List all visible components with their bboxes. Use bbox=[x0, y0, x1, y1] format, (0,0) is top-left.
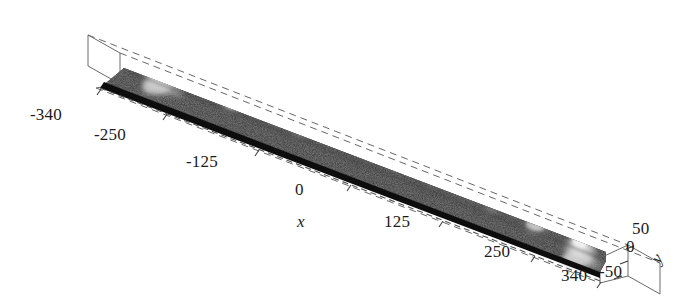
x-axis-ticks bbox=[97, 89, 601, 288]
y-tick-label-50: 50 bbox=[632, 220, 649, 237]
box-edge-left-top bbox=[88, 35, 120, 53]
box-edge-top-back bbox=[88, 35, 628, 245]
surface-plot-figure: -340 -250 -125 0 125 250 340 x 50 0 -50 … bbox=[0, 0, 691, 299]
y-tick-label-0: 0 bbox=[626, 238, 635, 255]
data-surface bbox=[104, 48, 612, 272]
peak-1 bbox=[134, 48, 186, 96]
x-tick-label-0: 0 bbox=[295, 181, 304, 198]
x-tick-label-neg250: -250 bbox=[94, 126, 126, 143]
y-tick-label-neg50: -50 bbox=[599, 263, 622, 280]
x-tick-340 bbox=[597, 282, 601, 288]
surface-front-lip bbox=[100, 82, 600, 278]
x-axis-line bbox=[100, 88, 600, 281]
x-tick-label-340: 340 bbox=[561, 267, 587, 284]
x-tick-125 bbox=[439, 221, 443, 227]
x-tick-neg125 bbox=[255, 150, 259, 156]
x-tick-label-125: 125 bbox=[384, 213, 410, 230]
x-axis-title: x bbox=[297, 213, 305, 230]
x-tick-label-neg340: -340 bbox=[30, 106, 62, 123]
box-edge-bottom-front bbox=[96, 88, 600, 283]
x-tick-label-250: 250 bbox=[484, 243, 510, 260]
x-tick-0 bbox=[347, 185, 351, 191]
box-edge-right-bottom bbox=[628, 276, 660, 294]
x-tick-neg340 bbox=[97, 89, 101, 95]
plot-canvas bbox=[0, 0, 691, 299]
x-tick-label-neg125: -125 bbox=[186, 153, 218, 170]
